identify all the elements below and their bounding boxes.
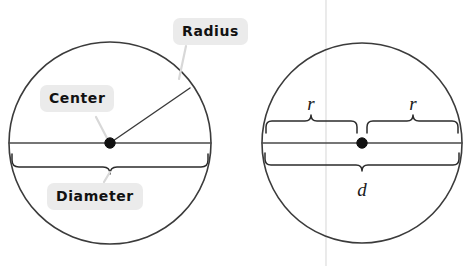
right-diameter-brace [265,153,459,171]
diameter-callout-leader [104,172,110,182]
right-circle-group: r r d [262,43,462,243]
diameter-label: d [357,179,367,200]
right-radius-right-brace [367,115,458,133]
left-radius-line [110,88,190,143]
center-callout-leader [96,117,108,140]
callout-center: Center [40,85,114,112]
radius-right-label: r [409,93,417,114]
radius-callout-leader [179,46,186,79]
right-center-dot [357,138,367,148]
circle-parts-diagram: r r d Radius Center Diameter [0,0,469,266]
left-center-dot [105,138,115,148]
callout-diameter: Diameter [47,183,143,210]
radius-left-label: r [307,93,315,114]
right-radius-left-brace [266,115,357,133]
left-circle-group [9,42,211,244]
callout-radius: Radius [173,18,248,45]
